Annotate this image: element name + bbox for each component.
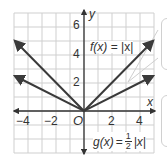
x-axis-label: x — [147, 96, 153, 108]
y-tick-6: 6 — [73, 19, 80, 31]
y-tick-4: 4 — [73, 48, 80, 60]
g-name: g(x) — [93, 136, 114, 148]
f-name: f(x) — [90, 40, 107, 54]
x-tick-neg2: −2 — [44, 115, 58, 127]
x-tick-4: 4 — [136, 115, 143, 127]
x-tick-2: 2 — [108, 115, 115, 127]
g-fraction: 1 2 — [125, 132, 132, 151]
g-eq: = — [116, 136, 123, 148]
callout-box-top — [161, 18, 167, 70]
f-label: f(x) = |x| — [90, 41, 133, 53]
origin-label: O — [73, 114, 83, 127]
x-tick-neg4: −4 — [16, 115, 30, 127]
f-eq: = |x| — [111, 40, 134, 54]
y-tick-2: 2 — [73, 76, 80, 88]
g-den: 2 — [126, 142, 131, 151]
g-label: g(x) = 1 2 |x| — [93, 132, 146, 151]
y-axis-label: y — [89, 8, 95, 20]
g-abs: |x| — [134, 136, 146, 148]
callout-box-bottom — [161, 95, 167, 147]
